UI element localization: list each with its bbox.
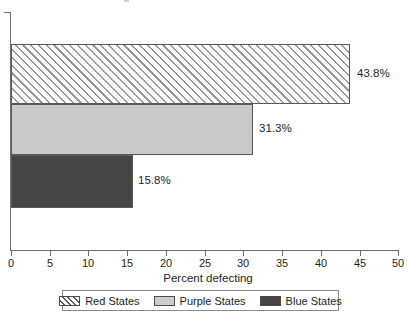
x-tick-label-40: 40 <box>315 257 327 270</box>
x-tick-45 <box>360 251 361 256</box>
bar-blue-states <box>11 155 133 208</box>
x-tick-35 <box>282 251 283 256</box>
legend-label-purple-states: Purple States <box>180 295 246 307</box>
bar-value-red-states: 43.8% <box>357 67 390 80</box>
x-tick-label-5: 5 <box>47 257 53 270</box>
legend-item-red-states: Red States <box>59 295 139 307</box>
x-axis-title: Percent defecting <box>0 271 408 285</box>
x-axis-title-text: Percent defecting <box>163 272 253 284</box>
bar-value-purple-states: 31.3% <box>259 122 292 135</box>
plot-area: 43.8% 31.3% 15.8% 0 5 10 15 20 25 30 35 … <box>0 0 408 258</box>
x-tick-label-25: 25 <box>199 257 211 270</box>
x-tick-5 <box>50 251 51 256</box>
legend-swatch-purple-states <box>154 296 175 306</box>
x-tick-label-50: 50 <box>392 257 404 270</box>
bar-red-states <box>11 44 350 104</box>
x-tick-20 <box>166 251 167 256</box>
x-tick-label-15: 15 <box>121 257 133 270</box>
x-tick-label-20: 20 <box>160 257 172 270</box>
x-tick-label-35: 35 <box>276 257 288 270</box>
x-tick-label-45: 45 <box>354 257 366 270</box>
x-tick-label-10: 10 <box>82 257 94 270</box>
x-tick-50 <box>398 251 399 256</box>
x-tick-30 <box>243 251 244 256</box>
x-tick-25 <box>205 251 206 256</box>
legend-item-purple-states: Purple States <box>154 295 246 307</box>
x-tick-label-0: 0 <box>8 257 14 270</box>
x-tick-15 <box>127 251 128 256</box>
x-tick-10 <box>88 251 89 256</box>
legend-swatch-blue-states <box>260 296 281 306</box>
legend-item-blue-states: Blue States <box>260 295 342 307</box>
bar-value-blue-states: 15.8% <box>138 174 171 187</box>
chart-legend: Red States Purple States Blue States <box>62 290 339 311</box>
x-tick-label-30: 30 <box>237 257 249 270</box>
legend-swatch-red-states <box>59 296 80 306</box>
x-tick-40 <box>321 251 322 256</box>
x-tick-0 <box>11 251 12 256</box>
legend-label-blue-states: Blue States <box>286 295 342 307</box>
legend-label-red-states: Red States <box>85 295 139 307</box>
bar-purple-states <box>11 104 253 155</box>
bar-chart: 43.8% 31.3% 15.8% 0 5 10 15 20 25 30 35 … <box>0 0 408 315</box>
